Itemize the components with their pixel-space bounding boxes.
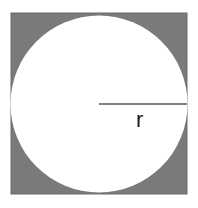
- radius-label: r: [136, 107, 143, 132]
- diagram: r: [0, 0, 198, 208]
